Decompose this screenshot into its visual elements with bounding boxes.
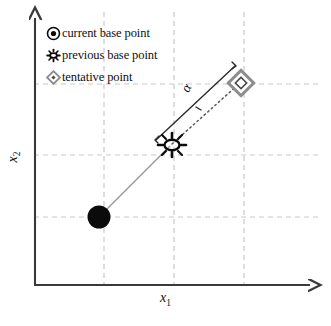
x-axis-label: x1 [160,290,171,308]
legend-item-tentative-point: tentative point [46,66,216,88]
y-axis-label-text: x [5,156,20,162]
legend-item-label: tentative point [62,71,132,84]
diamond-marker-icon [46,70,61,85]
figure-container: current base point previous base point [0,0,331,326]
marker-tentative-point [228,70,253,95]
y-axis-label: x2 [5,151,23,162]
connector-current-to-previous [100,146,170,216]
y-axis-label-subscript: 2 [12,151,22,156]
marker-current-base-point [88,206,111,229]
legend-item-label: current base point [62,27,150,40]
x-axis-label-subscript: 1 [166,298,171,308]
bullseye-marker-icon [46,26,61,41]
legend-item-current-base-point: current base point [46,22,216,44]
legend-item-label: previous base point [62,49,157,62]
legend-item-previous-base-point: previous base point [46,44,216,66]
legend: current base point previous base point [46,22,216,88]
whiskered-marker-icon [46,48,61,63]
marker-previous-base-point [158,133,186,157]
